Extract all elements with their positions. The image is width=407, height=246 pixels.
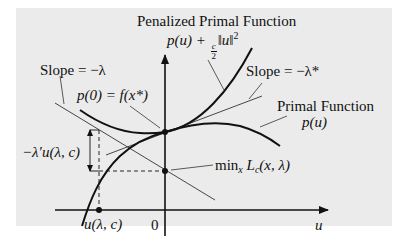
p0-label: p(0) = f(x*) (77, 88, 148, 103)
leader-primal (260, 116, 287, 127)
neg-lambda-u-label: −λ′u(λ, c) (22, 145, 80, 160)
primal-title-label: Primal Function (277, 99, 374, 114)
penalized-formula-pu: p(u) + (167, 32, 206, 48)
point-min-lagrangian (162, 168, 168, 174)
min-sub: x (238, 164, 242, 175)
slope-lambda-star-label: Slope = −λ* (246, 64, 319, 79)
penalized-formula-fraction: c2 (211, 42, 217, 61)
leader-penalized (208, 60, 224, 90)
origin-label: 0 (151, 218, 159, 233)
leader-min (171, 165, 213, 170)
penalized-title-label: Penalized Primal Function (137, 14, 296, 29)
penalized-formula-label: p(u) + c2‖u‖2 (167, 31, 239, 61)
min-text: min (215, 157, 238, 173)
leader-p0 (130, 106, 160, 128)
penalized-formula-norm: ‖u‖ (218, 32, 234, 48)
min-lagrangian-label: minx Lc(x, λ) (215, 158, 290, 175)
point-u-lambda-c (96, 207, 102, 213)
min-L: L (247, 157, 255, 173)
penalized-formula-exp: 2 (234, 30, 239, 41)
min-args: (x, λ) (259, 157, 290, 173)
slope-lambda-label: Slope = −λ (40, 63, 106, 78)
primal-formula-label: p(u) (302, 115, 327, 130)
point-p0 (162, 129, 168, 135)
u-axis-label: u (315, 218, 323, 233)
u-lambda-c-label: u(λ, c) (84, 217, 122, 232)
leader-slope-lambda (60, 76, 64, 104)
